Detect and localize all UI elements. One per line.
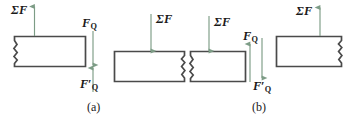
- caption-panel-a: (a): [87, 101, 100, 113]
- force-glyph: F: [82, 16, 90, 30]
- label-sum-force-lower-right: ΣF: [156, 13, 172, 26]
- diagram-canvas: [0, 0, 350, 122]
- panel-b-upper-right-block: [277, 37, 342, 67]
- force-glyph: F: [164, 12, 172, 26]
- subscript-q: Q: [252, 35, 258, 44]
- panel-b-lower-left-block: [190, 52, 246, 82]
- panel-a-lower-right-block: [115, 52, 185, 82]
- label-sum-force-upper-left: ΣF: [11, 4, 27, 17]
- label-shear-force-FQ-prime-b: F′Q: [253, 80, 271, 95]
- label-shear-force-FQ-b: FQ: [243, 30, 258, 45]
- label-sum-force-lower-left: ΣF: [214, 16, 230, 29]
- label-shear-force-FQ-prime-a: F′Q: [80, 78, 98, 93]
- force-glyph: F: [222, 15, 230, 29]
- force-glyph: F: [19, 3, 27, 17]
- force-glyph: F: [304, 4, 312, 18]
- subscript-q: Q: [265, 85, 271, 94]
- subscript-q: Q: [91, 22, 97, 31]
- label-shear-force-FQ-a: FQ: [82, 17, 97, 32]
- subscript-q: Q: [92, 83, 98, 92]
- caption-panel-b: (b): [252, 101, 266, 113]
- mechanics-shear-force-figure: ΣF FQ F′Q ΣF (a) ΣF FQ F′Q ΣF (b): [0, 0, 350, 122]
- sigma-glyph: Σ: [214, 15, 222, 29]
- sigma-glyph: Σ: [156, 12, 164, 26]
- label-sum-force-upper-right: ΣF: [296, 5, 312, 18]
- sigma-glyph: Σ: [296, 4, 304, 18]
- sigma-glyph: Σ: [11, 3, 19, 17]
- panel-a-upper-left-block: [14, 37, 86, 67]
- force-glyph: F: [243, 29, 251, 43]
